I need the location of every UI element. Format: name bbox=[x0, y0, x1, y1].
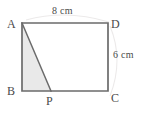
figure-canvas bbox=[0, 0, 142, 121]
vertex-label-d: D bbox=[111, 18, 120, 30]
measure-label-height: 6 cm bbox=[113, 50, 134, 60]
vertex-label-a: A bbox=[7, 18, 16, 30]
geometry-figure: A D C B P 8 cm 6 cm bbox=[0, 0, 142, 121]
measure-label-width: 8 cm bbox=[52, 6, 73, 16]
scan-artifact-arc-top bbox=[26, 15, 109, 22]
vertex-label-b: B bbox=[7, 85, 15, 97]
vertex-label-p: P bbox=[46, 95, 53, 107]
scan-artifact-arc-right bbox=[110, 26, 117, 96]
vertex-label-c: C bbox=[111, 92, 119, 104]
